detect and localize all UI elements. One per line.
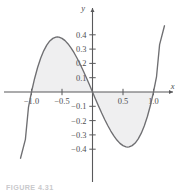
x-tick-label-0: −1.0 — [24, 97, 39, 106]
x-axis-label: x — [170, 81, 175, 91]
y-tick-label-0: 0.4 — [76, 31, 87, 40]
function-plot: −1.0−0.50.51.00.40.30.20.1−0.1−0.2−0.3−0… — [0, 0, 178, 190]
y-tick-label-7: −0.4 — [71, 145, 87, 154]
y-tick-label-1: 0.3 — [76, 45, 86, 54]
x-tick-label-3: 1.0 — [148, 97, 158, 106]
x-tick-label-2: 0.5 — [118, 97, 128, 106]
figure-container: −1.0−0.50.51.00.40.30.20.1−0.1−0.2−0.3−0… — [0, 0, 178, 190]
x-tick-label-1: −0.5 — [54, 97, 69, 106]
y-axis-label: y — [80, 3, 85, 13]
figure-caption: FIGURE 4.31 — [6, 183, 54, 190]
y-tick-label-6: −0.3 — [71, 131, 86, 140]
y-tick-label-5: −0.2 — [71, 117, 86, 126]
y-tick-label-4: −0.1 — [71, 102, 86, 111]
y-axis-arrow — [91, 8, 95, 12]
